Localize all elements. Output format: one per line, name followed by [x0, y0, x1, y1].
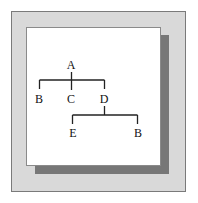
- node-b: B: [35, 93, 43, 105]
- node-b2: B: [134, 127, 142, 139]
- node-d: D: [100, 93, 109, 105]
- node-a: A: [67, 59, 76, 71]
- node-c: C: [67, 93, 75, 105]
- node-e: E: [69, 127, 76, 139]
